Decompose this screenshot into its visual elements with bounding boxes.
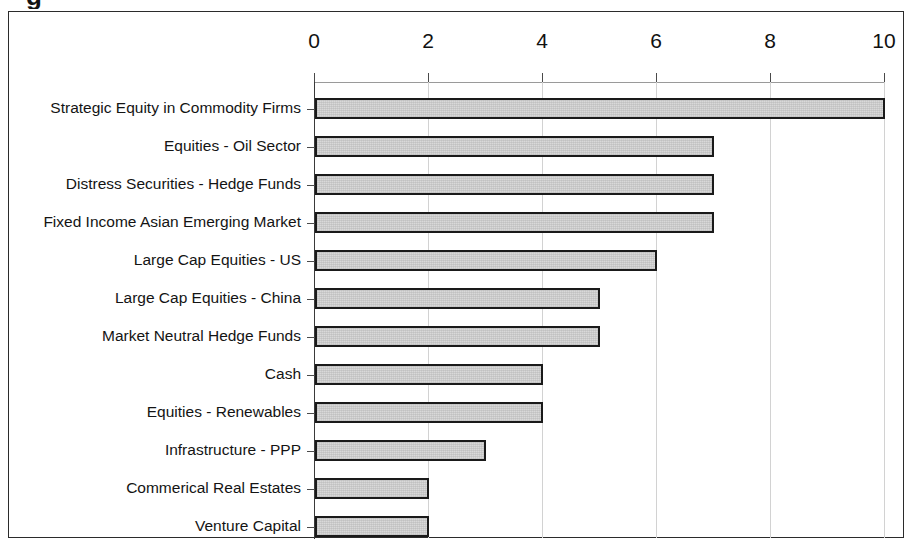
bar-chart-plot-area: 0246810 Strategic Equity in Commodity Fi… [9,12,905,539]
category-tick-mark [307,413,315,414]
category-label: Large Cap Equities - US [9,249,301,271]
category-tick-mark [307,147,315,148]
bar [315,250,657,271]
category-tick-mark [307,299,315,300]
bar [315,402,543,423]
category-tick-mark [307,337,315,338]
category-label: Equities - Oil Sector [9,135,301,157]
bar [315,288,600,309]
category-label: Distress Securities - Hedge Funds [9,173,301,195]
category-label: Large Cap Equities - China [9,287,301,309]
bar [315,98,885,119]
category-label: Cash [9,363,301,385]
category-label: Strategic Equity in Commodity Firms [9,97,301,119]
x-tick-mark [428,73,429,82]
bar-row: Strategic Equity in Commodity Firms [9,90,905,128]
x-tick-mark [314,73,315,82]
x-tick-mark [770,73,771,82]
bar [315,478,429,499]
bar-row: Market Neutral Hedge Funds [9,318,905,356]
x-tick-mark [884,73,885,82]
bar-row: Distress Securities - Hedge Funds [9,166,905,204]
category-label: Venture Capital [9,515,301,537]
category-label: Equities - Renewables [9,401,301,423]
category-label: Fixed Income Asian Emerging Market [9,211,301,233]
x-tick-label: 2 [406,29,450,53]
x-tick-label: 4 [520,29,564,53]
bar [315,440,486,461]
bar [315,174,714,195]
category-tick-mark [307,489,315,490]
category-label: Commerical Real Estates [9,477,301,499]
bar [315,136,714,157]
x-tick-label: 8 [748,29,792,53]
category-tick-mark [307,185,315,186]
bar-row: Large Cap Equities - China [9,280,905,318]
x-tick-label: 0 [292,29,336,53]
bar [315,212,714,233]
x-tick-mark [656,73,657,82]
bar-row: Fixed Income Asian Emerging Market [9,204,905,242]
category-label: Infrastructure - PPP [9,439,301,461]
bar-row: Equities - Oil Sector [9,128,905,166]
chart-frame: 0246810 Strategic Equity in Commodity Fi… [8,11,904,538]
x-tick-mark [542,73,543,82]
bar-row: Venture Capital [9,508,905,546]
bar [315,326,600,347]
bar-row: Cash [9,356,905,394]
category-tick-mark [307,109,315,110]
bar-row: Infrastructure - PPP [9,432,905,470]
x-tick-label: 10 [862,29,906,53]
x-tick-label: 6 [634,29,678,53]
category-tick-mark [307,451,315,452]
bar [315,516,429,537]
bar [315,364,543,385]
category-tick-mark [307,527,315,528]
category-tick-mark [307,261,315,262]
cropped-title-glyph: g [26,0,56,9]
bar-row: Large Cap Equities - US [9,242,905,280]
category-tick-mark [307,223,315,224]
x-axis-line [314,82,884,83]
category-tick-mark [307,375,315,376]
category-label: Market Neutral Hedge Funds [9,325,301,347]
bar-row: Commerical Real Estates [9,470,905,508]
bar-row: Equities - Renewables [9,394,905,432]
